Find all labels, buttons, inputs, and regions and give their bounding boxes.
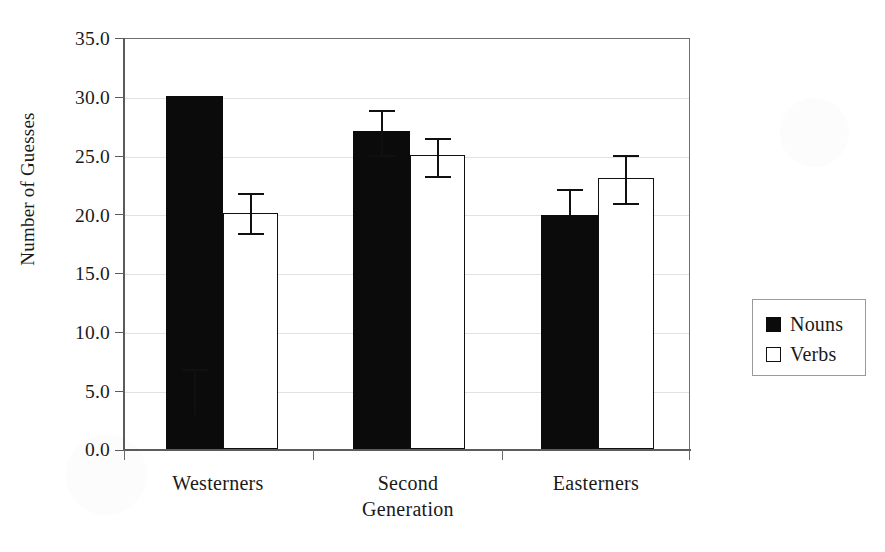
filled-square-icon xyxy=(766,317,781,332)
errorbar-cap-bottom xyxy=(369,155,395,157)
x-tick-mark xyxy=(502,450,503,460)
errorbar-cap-bottom xyxy=(238,233,264,235)
y-tick-mark xyxy=(115,214,123,215)
y-tick-mark xyxy=(115,273,123,274)
legend-label: Verbs xyxy=(790,344,837,364)
legend-item-nouns[interactable]: Nouns xyxy=(766,309,865,339)
y-tick-mark xyxy=(115,391,123,392)
x-category-label-westerners: Westerners xyxy=(128,470,308,496)
errorbar-verbs-easterners xyxy=(598,155,654,205)
errorbar-cap-top xyxy=(238,193,264,195)
x-tick-mark xyxy=(124,450,125,460)
errorbar-stem xyxy=(437,138,439,178)
bar-nouns-second-generation[interactable] xyxy=(353,131,410,449)
x-category-label-generation: Generation xyxy=(318,496,498,522)
legend-label: Nouns xyxy=(790,314,843,334)
y-tick-text: 5.0 xyxy=(40,382,110,402)
bar-verbs-second-generation[interactable] xyxy=(410,155,465,449)
y-tick-text: 15.0 xyxy=(40,264,110,284)
bar-nouns-easterners[interactable] xyxy=(541,215,598,449)
errorbar-cap-top xyxy=(425,138,451,140)
plot-area xyxy=(123,38,690,450)
x-axis-line xyxy=(123,449,691,451)
legend-item-verbs[interactable]: Verbs xyxy=(766,339,865,369)
y-tick-mark xyxy=(115,156,123,157)
y-tick-mark xyxy=(115,97,123,98)
x-category-label-second: Second xyxy=(318,470,498,496)
errorbar-stem xyxy=(250,193,252,235)
x-tick-mark xyxy=(689,450,690,460)
plot-inner xyxy=(124,39,689,449)
errorbar-cap-top xyxy=(613,155,639,157)
errorbar-stem xyxy=(194,369,196,415)
bar-chart-figure: Number of Guesses 35.0 30.0 25.0 20.0 15… xyxy=(0,0,885,552)
errorbar-cap-bottom xyxy=(613,203,639,205)
errorbar-nouns-second-generation xyxy=(353,110,410,157)
y-tick-text: 10.0 xyxy=(40,323,110,343)
y-tick-mark xyxy=(115,332,123,333)
y-tick-text: 0.0 xyxy=(40,440,110,460)
errorbar-stem xyxy=(625,155,627,205)
bar-verbs-westerners[interactable] xyxy=(223,213,278,449)
errorbar-verbs-westerners xyxy=(223,193,278,235)
y-tick-mark xyxy=(115,450,123,451)
y-tick-text: 25.0 xyxy=(40,147,110,167)
y-tick-text: 35.0 xyxy=(40,29,110,49)
errorbar-nouns-easterners xyxy=(541,189,598,217)
x-tick-mark xyxy=(313,450,314,460)
errorbar-verbs-second-generation xyxy=(410,138,465,178)
x-category-label-easterners: Easterners xyxy=(506,470,686,496)
y-tick-mark xyxy=(115,38,123,39)
legend: Nouns Verbs xyxy=(752,299,866,376)
errorbar-stem xyxy=(381,110,383,157)
y-tick-text: 20.0 xyxy=(40,206,110,226)
errorbar-cap-top xyxy=(369,110,395,112)
hollow-square-icon xyxy=(766,347,781,362)
errorbar-cap-top xyxy=(182,369,208,371)
errorbar-stem xyxy=(569,189,571,217)
y-axis-line xyxy=(123,38,125,451)
y-tick-text: 30.0 xyxy=(40,88,110,108)
bar-verbs-easterners[interactable] xyxy=(598,178,654,449)
errorbar-cap-top xyxy=(557,189,583,191)
errorbar-nouns-westerners xyxy=(166,369,223,415)
errorbar-cap-bottom xyxy=(425,176,451,178)
